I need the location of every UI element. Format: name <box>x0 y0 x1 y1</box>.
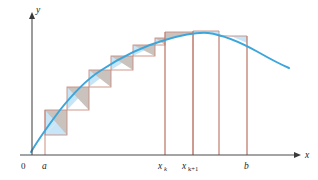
axes-group <box>20 12 301 158</box>
x-axis-arrow-icon <box>294 152 301 158</box>
tall-rect-outline-xk-xk1 <box>165 32 193 155</box>
riemann-sum-figure: 0 y x a x k x k+1 b <box>0 0 318 180</box>
tick-label-a: a <box>42 161 47 171</box>
figure-container: 0 y x a x k x k+1 b <box>0 0 318 180</box>
y-axis-label: y <box>35 5 41 15</box>
label-group: 0 y x a x k x k+1 b <box>21 5 310 172</box>
tall-rect-fill-below-curve <box>219 34 247 43</box>
tall-rect-outline-next-b <box>219 36 247 155</box>
staircase-step-group <box>45 38 165 135</box>
tick-label-xk1-base: x <box>181 161 187 171</box>
tick-label-xk-subscript: k <box>164 165 168 172</box>
tick-label-xk-base: x <box>157 161 163 171</box>
y-axis-arrow-icon <box>29 12 35 19</box>
tick-label-xk1: x k+1 <box>181 161 198 172</box>
origin-label: 0 <box>21 161 26 171</box>
staircase-step <box>89 70 111 87</box>
tick-label-b: b <box>244 161 249 171</box>
tall-rect-outline-xk1-next <box>193 31 219 155</box>
tick-label-xk1-subscript: k+1 <box>188 165 198 172</box>
tall-rectangle-group <box>165 31 247 155</box>
x-axis-label: x <box>304 150 310 160</box>
tick-label-xk: x k <box>157 161 168 172</box>
